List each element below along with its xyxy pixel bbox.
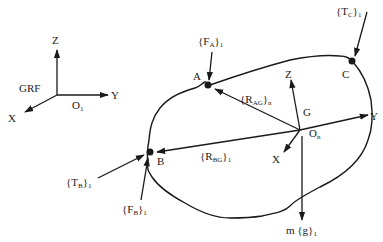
body-center-label: G	[303, 106, 311, 118]
free-body-diagram: Z Y X GRF O1 A C B Z Y X G On {RAG}n {RB…	[0, 0, 383, 242]
ground-reference-frame: Z Y X GRF O1	[8, 34, 119, 124]
grf-origin-label: O1	[72, 99, 84, 113]
grf-label: GRF	[19, 82, 40, 94]
body-x-axis	[284, 130, 300, 152]
force-f-a-arrow	[209, 52, 212, 80]
grf-z-label: Z	[52, 34, 59, 46]
force-f-a-label: {FA}1	[198, 35, 224, 49]
body-z-axis	[291, 80, 300, 130]
grf-x-axis	[25, 95, 57, 112]
vector-r-ag	[215, 89, 300, 130]
force-f-b-arrow	[141, 158, 148, 200]
force-f-b-label: {FB}1	[122, 203, 147, 217]
weight-force-label: m {g}1	[286, 224, 317, 238]
body-reference-frame: Z Y X G On	[272, 68, 378, 165]
body-origin-label: On	[309, 127, 321, 141]
point-b-marker	[147, 149, 154, 156]
torque-t-b-label: {TB}1	[66, 176, 92, 190]
point-a-label: A	[193, 70, 201, 82]
torque-t-b-arrow	[98, 155, 144, 178]
point-c-label: C	[342, 68, 349, 80]
vector-r-bg-label: {RBG}1	[200, 150, 232, 164]
body-y-label: Y	[370, 110, 378, 122]
vector-r-ag-label: {RAG}n	[240, 93, 272, 107]
torque-t-c-label: {TC}1	[336, 5, 362, 19]
point-c-marker	[349, 58, 356, 65]
body-z-label: Z	[285, 68, 292, 80]
vector-r-bg	[157, 130, 300, 152]
point-a-marker	[205, 82, 212, 89]
point-b-label: B	[157, 155, 164, 167]
grf-y-label: Y	[111, 89, 119, 101]
body-x-label: X	[272, 153, 280, 165]
grf-x-label: X	[8, 112, 16, 124]
